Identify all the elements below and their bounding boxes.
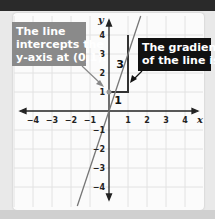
x-tick-label: 4: [182, 116, 188, 125]
callout-line: The gradient: [142, 41, 207, 54]
intercept-callout: The line intercepts the y-axis at (0,1).: [12, 22, 86, 66]
callout-arrows: [82, 66, 142, 87]
bottom-band: [0, 210, 215, 219]
rise-label: 3: [116, 58, 124, 71]
y-axis-label: y: [97, 14, 105, 25]
y-tick-label: −4: [93, 183, 106, 192]
x-tick-label: −4: [27, 116, 40, 125]
callout-line: The line: [16, 25, 82, 38]
callout-line: y-axis at (0,1).: [16, 51, 82, 64]
callout-line: intercepts the: [16, 38, 82, 51]
callout-line: of the line is 3.: [142, 54, 207, 67]
x-tick-label: −1: [84, 116, 97, 125]
y-tick-label: −3: [93, 164, 105, 173]
run-label: 1: [114, 94, 122, 107]
y-axis-up-arrow: [107, 20, 112, 26]
x-tick-label: 2: [144, 116, 150, 125]
y-tick-label: 1: [99, 88, 105, 97]
gradient-callout: The gradient of the line is 3.: [138, 38, 211, 71]
x-axis-label: x: [196, 114, 204, 125]
x-tick-label: −2: [65, 116, 77, 125]
y-tick-label: −2: [93, 145, 105, 154]
x-tick-label: 3: [163, 116, 169, 125]
x-tick-label: −3: [46, 116, 58, 125]
y-tick-label: 2: [99, 69, 105, 78]
x-axis-right-arrow: [192, 109, 198, 114]
y-axis-down-arrow: [107, 194, 112, 200]
x-axis-left-arrow: [20, 109, 26, 114]
x-tick-label: 1: [125, 116, 131, 125]
y-tick-label: −1: [93, 126, 106, 135]
intercept-point: [107, 90, 112, 95]
